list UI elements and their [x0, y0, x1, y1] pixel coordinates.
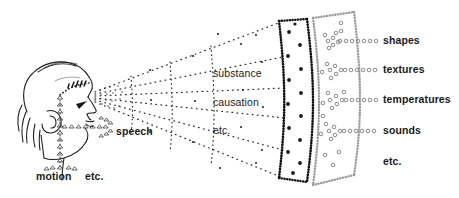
label-sounds: sounds [383, 124, 421, 136]
label-temperatures: temperatures [383, 93, 451, 105]
label-substance: substance [213, 67, 262, 79]
label-motion: motion [36, 170, 72, 182]
diagram-canvas: substance causation etc. shapes textures… [0, 0, 459, 198]
inner-cone-dividers [131, 46, 214, 166]
middle-band-dots [286, 22, 303, 175]
outer-band-right-edge [354, 12, 360, 175]
brain-activity-marks [68, 81, 86, 88]
middle-band-caps [279, 19, 307, 182]
label-causation: causation [213, 96, 259, 108]
middle-band-left-edge [279, 21, 284, 178]
label-motion-etc: etc. [85, 170, 104, 182]
apex-ray-scatter [99, 85, 122, 108]
label-outer-etc: etc. [383, 155, 402, 167]
label-inner-etc: etc. [213, 124, 230, 136]
label-speech: speech [116, 125, 153, 137]
label-shapes: shapes [383, 34, 420, 46]
label-textures: textures [383, 63, 425, 75]
middle-band-right-edge [307, 19, 313, 182]
outer-band-circle-clusters [319, 21, 346, 167]
